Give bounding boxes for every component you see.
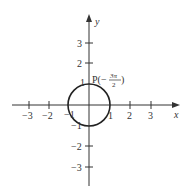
y-tick-label: −1 [71, 120, 82, 131]
point-label-prefix: P(− [92, 74, 107, 86]
diagram-svg: −3 −2 −1 1 2 3 3 2 1 −1 −2 −3 x y P(− 3π… [0, 0, 190, 194]
x-tick-label: −1 [64, 109, 75, 120]
point-label-numerator: 3π [109, 72, 118, 80]
y-tick-label: −3 [71, 162, 82, 173]
y-tick-label: 1 [80, 77, 85, 88]
y-axis-arrow-icon [86, 14, 92, 22]
x-axis-label: x [173, 109, 179, 120]
y-tick-label: 2 [77, 58, 82, 69]
x-tick-label: −3 [22, 110, 33, 121]
x-axis-arrow-icon [172, 102, 180, 108]
unit-circle-diagram: −3 −2 −1 1 2 3 3 2 1 −1 −2 −3 x y P(− 3π… [0, 0, 190, 194]
y-axis-label: y [94, 16, 100, 27]
point-label-denominator: 2 [112, 81, 116, 89]
y-tick-label: −2 [71, 141, 82, 152]
x-tick-label: 1 [108, 110, 113, 121]
point-label-suffix: ) [121, 74, 124, 86]
point-label: P(− 3π 2 ) [92, 72, 124, 89]
x-tick-label: 2 [127, 110, 132, 121]
x-tick-label: 3 [148, 110, 153, 121]
x-tick-label: −2 [42, 110, 53, 121]
y-tick-label: 3 [77, 38, 82, 49]
